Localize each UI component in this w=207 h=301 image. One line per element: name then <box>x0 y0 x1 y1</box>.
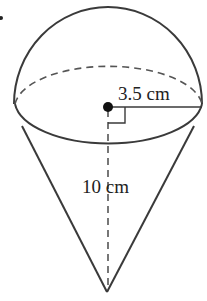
hemisphere-dome <box>14 7 202 104</box>
radius-label: 3.5 cm <box>118 83 170 104</box>
base-ellipse-back <box>15 66 202 104</box>
center-point <box>103 102 113 112</box>
hemisphere-cone-diagram: 3.5 cm 10 cm <box>0 0 207 301</box>
cone-right-edge <box>107 126 194 292</box>
height-label: 10 cm <box>82 176 129 197</box>
cone-left-edge <box>22 126 107 292</box>
bullet-mark <box>0 16 3 20</box>
